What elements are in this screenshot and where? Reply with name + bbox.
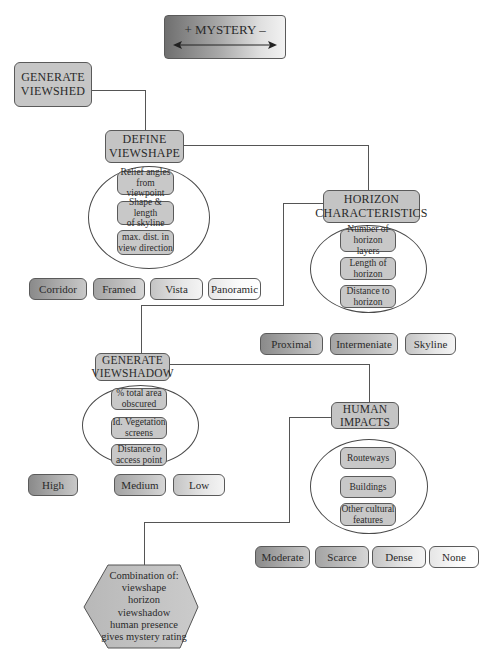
factor-vegetation-screens: Id. Vegetationscreens — [111, 417, 167, 439]
factor-line2: horizon layers — [341, 235, 395, 257]
option-skyline: Skyline — [405, 333, 456, 355]
factor-buildings: Buildings — [340, 476, 396, 498]
factor-line1: Routeways — [347, 453, 389, 464]
factor-line1: Length of — [349, 258, 386, 269]
option-medium: Medium — [114, 474, 166, 496]
connector-viewshape-horizon-v — [368, 145, 369, 190]
factor-other-cultural: Other culturalfeatures — [340, 503, 396, 526]
factor-line2: of skyline — [118, 218, 173, 229]
factor-line1: Buildings — [350, 482, 387, 493]
connector-viewshed-viewshape-h — [92, 90, 145, 91]
factor-horizon-length: Length ofhorizon — [340, 257, 396, 280]
result-line: Combination of: — [92, 570, 196, 582]
option-proximal: Proximal — [260, 333, 323, 355]
connector-human-result-v2 — [144, 522, 145, 566]
factor-routeways: Routeways — [340, 447, 396, 469]
horizon-line1: HORIZON — [315, 193, 427, 206]
connector-human-result-h1 — [289, 417, 331, 418]
connector-human-result-v1 — [289, 417, 290, 523]
option-framed: Framed — [93, 278, 145, 300]
mystery-scale-box: + MYSTERY – — [164, 15, 286, 59]
factor-line2: view direction — [118, 243, 173, 254]
connector-human-result-h2 — [144, 522, 290, 523]
factor-line1: Number of — [341, 224, 395, 235]
result-line: viewshape — [92, 582, 196, 594]
factor-line2: obscured — [116, 399, 161, 410]
factor-line1: Shape & length — [118, 197, 173, 219]
generate-viewshadow-box: GENERATE VIEWSHADOW — [95, 353, 170, 381]
factor-line1: % total area — [116, 388, 161, 399]
factor-line1: Distance to — [116, 444, 162, 455]
human-impacts-line1: HUMAN — [340, 403, 390, 416]
factor-line2: horizon — [346, 297, 389, 308]
factor-horizon-layers: Number ofhorizon layers — [340, 229, 396, 252]
generate-viewshed-line2: VIEWSHED — [21, 85, 85, 98]
option-panoramic: Panoramic — [208, 278, 261, 300]
option-none: None — [429, 546, 479, 568]
factor-line1: max. dist. in — [118, 232, 173, 243]
connector-viewshed-viewshape-v — [145, 90, 146, 130]
generate-viewshed-box: GENERATE VIEWSHED — [14, 62, 92, 107]
option-scarce: Scarce — [315, 546, 369, 568]
option-low: Low — [173, 474, 225, 496]
option-dense: Dense — [372, 546, 426, 568]
factor-shape-length-skyline: Shape & lengthof skyline — [117, 201, 174, 225]
horizon-characteristics-box: HORIZON CHARACTERISTICS — [323, 190, 420, 223]
factor-line2: horizon — [349, 269, 386, 280]
define-viewshape-line2: VIEWSHAPE — [109, 147, 180, 160]
factor-line2: features — [341, 515, 394, 526]
result-line: human presence — [92, 619, 196, 631]
connector-horizon-viewshadow-v2 — [141, 305, 142, 353]
option-high: High — [28, 474, 78, 496]
option-vista: Vista — [150, 278, 203, 300]
factor-area-obscured: % total areaobscured — [111, 388, 167, 410]
factor-line1: Other cultural — [341, 504, 394, 515]
double-headed-arrow-icon — [165, 16, 285, 58]
result-line: gives mystery rating — [92, 631, 196, 643]
connector-horizon-viewshadow-v1 — [283, 203, 284, 306]
connector-horizon-viewshadow-h2 — [141, 305, 284, 306]
factor-line1: Relief angles — [118, 167, 173, 178]
factor-horizon-distance: Distance tohorizon — [340, 285, 396, 308]
define-viewshape-box: DEFINE VIEWSHAPE — [105, 130, 184, 163]
human-impacts-line2: IMPACTS — [340, 416, 390, 429]
horizon-line2: CHARACTERISTICS — [315, 207, 427, 220]
factor-line2: access point — [116, 455, 162, 466]
connector-viewshadow-human-h — [170, 364, 370, 365]
result-line: viewshadow — [92, 607, 196, 619]
generate-viewshed-line1: GENERATE — [21, 71, 85, 84]
connector-viewshape-horizon-h — [183, 145, 369, 146]
factor-access-distance: Distance toaccess point — [111, 444, 167, 466]
connector-viewshadow-human-v — [369, 364, 370, 402]
factor-relief-angles: Relief anglesfrom viewpoint — [117, 171, 174, 195]
option-corridor: Corridor — [29, 278, 87, 300]
result-text: Combination of: viewshape horizon viewsh… — [92, 570, 196, 646]
factor-max-distance: max. dist. inview direction — [117, 230, 174, 255]
viewshadow-line1: GENERATE — [91, 354, 173, 367]
option-moderate: Moderate — [255, 546, 310, 568]
result-line: horizon — [92, 594, 196, 606]
viewshadow-line2: VIEWSHADOW — [91, 367, 173, 380]
define-viewshape-line1: DEFINE — [109, 133, 180, 146]
factor-line2: screens — [112, 428, 165, 439]
factor-line1: Id. Vegetation — [112, 417, 165, 428]
human-impacts-box: HUMAN IMPACTS — [331, 402, 399, 429]
option-intermeniate: Intermeniate — [330, 333, 398, 355]
factor-line1: Distance to — [346, 286, 389, 297]
